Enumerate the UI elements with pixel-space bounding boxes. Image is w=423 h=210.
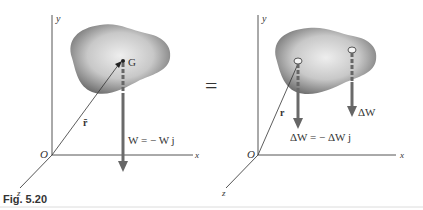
delta-w-label-2: ΔW bbox=[358, 106, 376, 118]
r-label: r bbox=[280, 107, 285, 118]
figure-caption: Fig. 5.20 bbox=[3, 193, 47, 205]
equals-sign: = bbox=[205, 73, 217, 98]
rigid-body-shape bbox=[70, 24, 170, 93]
weight-arrowhead bbox=[118, 161, 128, 172]
left-diagram: y x z O G r̄ W = − W j bbox=[16, 13, 199, 198]
g-label: G bbox=[128, 56, 136, 68]
rigid-body-shape-right bbox=[275, 28, 376, 94]
y-axis-label-right: y bbox=[261, 13, 267, 24]
r-bar-label: r̄ bbox=[83, 117, 88, 128]
delta-w-arrowhead-1 bbox=[293, 118, 303, 129]
x-axis-label: x bbox=[194, 150, 199, 160]
right-diagram: y x z O r ΔW = − ΔW j ΔW bbox=[221, 13, 404, 198]
z-axis-label-right: z bbox=[221, 188, 226, 198]
weight-label: W = − W j bbox=[128, 134, 175, 146]
delta-w-arrowhead-2 bbox=[347, 106, 357, 117]
mass-element-1 bbox=[294, 58, 302, 64]
x-axis-label-right: x bbox=[399, 150, 404, 160]
mass-element-2 bbox=[348, 47, 356, 53]
origin-label-right: O bbox=[247, 148, 255, 160]
figure-canvas: y x z O G r̄ W = − W j = y x z O r ΔW = … bbox=[0, 0, 423, 210]
origin-label: O bbox=[40, 148, 48, 160]
delta-w-label-1: ΔW = − ΔW j bbox=[290, 131, 351, 143]
y-axis-label: y bbox=[55, 13, 61, 24]
center-of-gravity-point bbox=[121, 59, 125, 63]
